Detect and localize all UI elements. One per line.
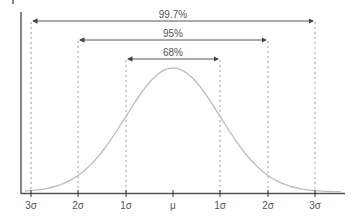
tick-label-plus-3sigma: 3σ <box>309 200 322 211</box>
interval-label-68: 68% <box>163 47 183 58</box>
tick-label-plus-2sigma: 2σ <box>262 200 275 211</box>
bell-curve <box>25 68 341 192</box>
tick-label-minus-3sigma: 3σ <box>25 200 38 211</box>
tick-label-plus-1sigma: 1σ <box>214 200 227 211</box>
interval-label-95: 95% <box>163 28 183 39</box>
tick-label-minus-1sigma: 1σ <box>120 200 133 211</box>
tick-label-mu: μ <box>170 200 176 211</box>
normal-distribution-diagram: 99.7% 95% 68% 3σ 2σ 1σ μ 1σ 2σ 3σ <box>0 0 363 218</box>
tick-label-minus-2sigma: 2σ <box>72 200 85 211</box>
interval-label-99-7: 99.7% <box>159 9 187 20</box>
